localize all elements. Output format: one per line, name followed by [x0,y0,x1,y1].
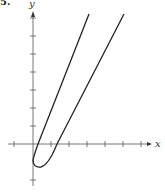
y-axis-label: y [28,0,35,9]
y-axis-arrow-icon [31,11,35,17]
x-axis-arrow-icon [147,142,152,146]
x-axis: x [8,138,161,149]
y-axis: y [28,0,36,186]
graph: x y [0,0,165,196]
x-axis-label: x [155,138,161,149]
